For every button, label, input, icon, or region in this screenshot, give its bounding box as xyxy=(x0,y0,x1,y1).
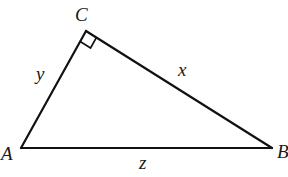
vertex-label-a: A xyxy=(0,143,13,164)
side-cb xyxy=(86,31,272,148)
right-triangle-diagram: C A B y x z xyxy=(0,0,288,177)
vertex-label-b: B xyxy=(277,141,288,162)
side-label-z: z xyxy=(138,152,147,173)
side-label-y: y xyxy=(34,63,45,84)
side-ac xyxy=(21,31,86,148)
side-label-x: x xyxy=(177,59,187,80)
vertex-label-c: C xyxy=(75,4,88,25)
